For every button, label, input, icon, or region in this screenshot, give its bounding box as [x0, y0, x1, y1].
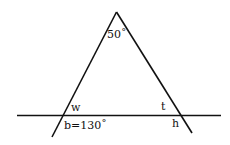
angle-t-label: t — [161, 100, 166, 113]
apex-angle-label: 50˚ — [107, 28, 127, 41]
angle-b-label: b=130˚ — [64, 119, 107, 132]
triangle-diagram: 50˚ w t h b=130˚ — [0, 0, 230, 145]
diagram-canvas: 50˚ w t h b=130˚ — [0, 0, 230, 145]
angle-h-label: h — [172, 117, 179, 130]
angle-w-label: w — [71, 101, 81, 114]
